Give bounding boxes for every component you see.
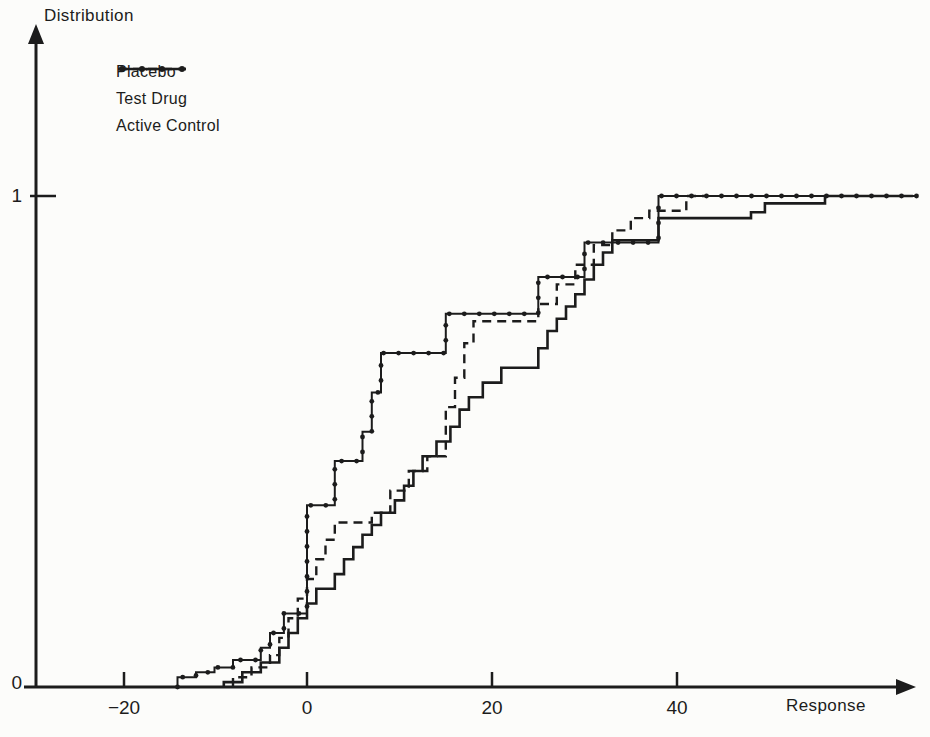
- x-tick-label-40: 40: [666, 697, 687, 719]
- x-axis-title: Response: [786, 696, 866, 716]
- active-control-line-sample-icon: [116, 62, 188, 76]
- x-tick-label-0: 0: [302, 697, 313, 719]
- x-tick-label-20: 20: [481, 697, 502, 719]
- y-axis-arrow-icon: [28, 24, 44, 44]
- x-axis-arrow-icon: [896, 679, 916, 695]
- y-axis-title: Distribution: [44, 6, 134, 26]
- x-tick-label-neg20: −20: [108, 697, 140, 719]
- legend-label-active-control: Active Control: [116, 117, 220, 135]
- legend-item-test-drug: Test Drug: [116, 89, 220, 109]
- series-placebo: [175, 194, 919, 690]
- y-tick-label-0: 0: [0, 672, 22, 694]
- ecdf-figure: Distribution Response −20 0 20 40 0 1 Pl…: [0, 0, 930, 737]
- y-tick-label-1: 1: [0, 185, 22, 207]
- legend-label-test-drug: Test Drug: [116, 90, 187, 108]
- series-active-control: [224, 196, 913, 687]
- legend-item-active-control: Active Control: [116, 116, 220, 136]
- legend: Placebo Test Drug Active Control: [116, 62, 220, 136]
